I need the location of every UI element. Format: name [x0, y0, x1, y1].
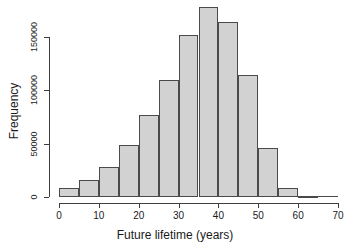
y-axis-title: Frequency [7, 66, 21, 156]
y-tick-label: 100000 [29, 70, 39, 110]
histogram-bar [258, 148, 278, 197]
histogram-bar [298, 196, 318, 198]
x-tick-label: 20 [124, 210, 154, 221]
histogram-bar [218, 22, 238, 197]
histogram-bar [179, 35, 199, 197]
x-tick-mark [298, 203, 299, 208]
y-tick-mark [44, 37, 49, 38]
x-tick-label: 30 [164, 210, 194, 221]
x-tick-mark [218, 203, 219, 208]
histogram-bar [318, 196, 338, 197]
x-tick-mark [258, 203, 259, 208]
histogram-bar [79, 180, 99, 197]
y-tick-label: 150000 [29, 17, 39, 57]
x-axis-line [59, 203, 338, 204]
x-tick-label: 10 [84, 210, 114, 221]
y-axis-line [49, 37, 50, 197]
x-tick-label: 50 [243, 210, 273, 221]
x-tick-label: 40 [203, 210, 233, 221]
histogram-bar [159, 80, 179, 197]
histogram-bar [59, 188, 79, 197]
y-tick-label: 50000 [29, 124, 39, 164]
x-tick-label: 60 [283, 210, 313, 221]
y-tick-mark [44, 197, 49, 198]
x-tick-mark [139, 203, 140, 208]
x-tick-mark [99, 203, 100, 208]
x-tick-mark [179, 203, 180, 208]
histogram-bar [199, 7, 219, 197]
x-axis-title: Future lifetime (years) [0, 228, 350, 242]
x-tick-mark [338, 203, 339, 208]
x-tick-label: 70 [323, 210, 350, 221]
histogram-bar [139, 115, 159, 197]
y-tick-mark [44, 144, 49, 145]
x-tick-mark [59, 203, 60, 208]
histogram-bar [119, 145, 139, 197]
histogram-plot: 010203040506070 050000100000150000 Futur… [0, 0, 350, 249]
histogram-bar [278, 188, 298, 197]
x-tick-label: 0 [44, 210, 74, 221]
y-tick-mark [44, 90, 49, 91]
y-tick-label: 0 [29, 177, 39, 217]
histogram-bar [238, 75, 258, 197]
histogram-bar [99, 167, 119, 197]
